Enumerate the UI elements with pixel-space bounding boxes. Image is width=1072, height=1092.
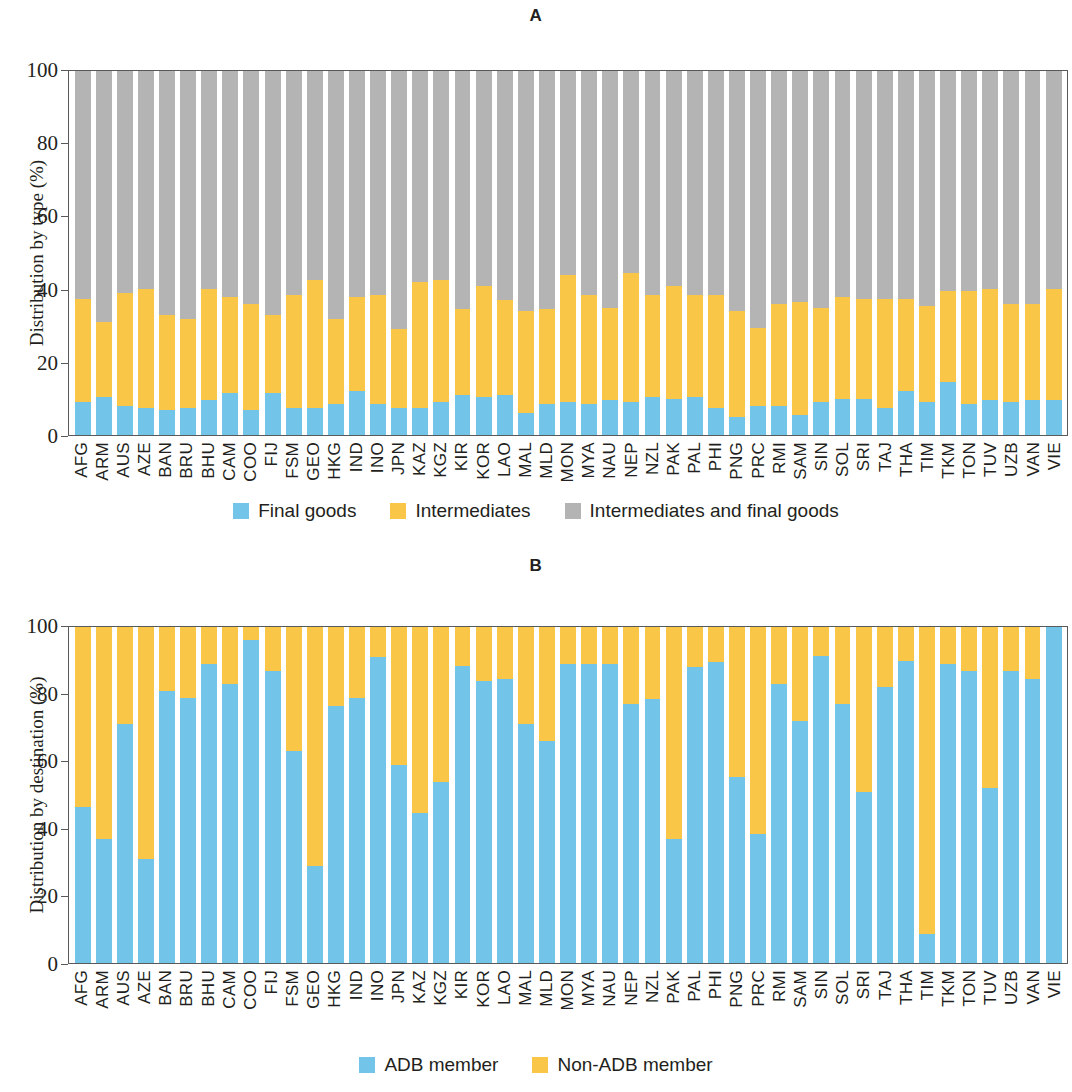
bar-segment xyxy=(180,319,196,408)
bar-segment xyxy=(729,417,745,435)
y-tick-label: 0 xyxy=(48,954,59,975)
panel-b-y-axis-ticks: 100806040200 xyxy=(0,626,58,964)
bar-segment xyxy=(497,300,513,395)
x-tick-label-nau: NAU xyxy=(603,968,619,1048)
bar-kgz xyxy=(433,627,449,963)
y-tick-mark xyxy=(61,216,68,217)
panel-b-plot-area xyxy=(68,626,1068,964)
x-tick-label-sri: SRI xyxy=(856,968,872,1048)
bar-segment xyxy=(792,415,808,435)
bar-segment xyxy=(982,71,998,289)
bar-segment xyxy=(286,408,302,435)
x-tick-label-arm: ARM xyxy=(95,968,111,1048)
bar-segment xyxy=(813,71,829,308)
x-tick-label-mon: MON xyxy=(560,968,576,1048)
bar-segment xyxy=(856,299,872,399)
x-tick-label-aus: AUS xyxy=(116,968,132,1048)
bar-segment xyxy=(961,627,977,671)
x-tick-label-pal: PAL xyxy=(687,968,703,1048)
bar-van xyxy=(1025,71,1041,435)
y-tick-mark xyxy=(61,626,68,627)
legend-item: Final goods xyxy=(233,500,356,522)
bar-segment xyxy=(349,297,365,392)
y-tick-mark xyxy=(61,436,68,437)
bar-mld xyxy=(539,627,555,963)
bar-segment xyxy=(835,297,851,399)
bar-segment xyxy=(623,273,639,402)
bar-segment xyxy=(687,295,703,397)
bar-segment xyxy=(328,706,344,963)
bar-bhu xyxy=(201,627,217,963)
bar-segment xyxy=(940,291,956,382)
bar-afg xyxy=(75,627,91,963)
bar-segment xyxy=(518,311,534,413)
x-tick-label-phi: PHI xyxy=(708,968,724,1048)
bar-segment xyxy=(750,328,766,406)
x-tick-label-rmi: RMI xyxy=(772,968,788,1048)
bar-vie xyxy=(1046,627,1062,963)
bar-segment xyxy=(222,393,238,435)
bar-segment xyxy=(708,408,724,435)
x-tick-label-kor: KOR xyxy=(476,968,492,1048)
bar-segment xyxy=(666,627,682,839)
x-tick-label-vie: VIE xyxy=(1047,968,1063,1048)
bar-segment xyxy=(560,627,576,664)
bar-uzb xyxy=(1003,627,1019,963)
panel-b: B Distribution by destination (%) 100806… xyxy=(0,546,1072,1092)
bar-segment xyxy=(792,302,808,415)
bar-segment xyxy=(476,627,492,681)
bar-segment xyxy=(982,400,998,435)
bar-segment xyxy=(750,406,766,435)
bar-pak xyxy=(666,627,682,963)
bar-segment xyxy=(1003,402,1019,435)
bar-segment xyxy=(1025,627,1041,679)
bar-segment xyxy=(1046,289,1062,400)
bar-segment xyxy=(560,275,576,402)
panel-b-bars xyxy=(69,627,1067,963)
bar-pal xyxy=(687,71,703,435)
bar-segment xyxy=(1003,627,1019,671)
bar-segment xyxy=(645,397,661,435)
bar-segment xyxy=(835,399,851,435)
bar-sol xyxy=(835,71,851,435)
bar-segment xyxy=(813,308,829,403)
legend-label: Intermediates and final goods xyxy=(590,500,839,522)
bar-segment xyxy=(877,71,893,299)
bar-segment xyxy=(982,788,998,963)
bar-segment xyxy=(687,71,703,295)
bar-segment xyxy=(919,934,935,963)
x-tick-label-ino: INO xyxy=(370,968,386,1048)
bar-segment xyxy=(539,741,555,963)
bar-segment xyxy=(835,704,851,963)
bar-segment xyxy=(222,297,238,393)
bar-fij xyxy=(265,71,281,435)
bar-segment xyxy=(497,627,513,679)
bar-jpn xyxy=(391,627,407,963)
bar-segment xyxy=(433,782,449,963)
bar-segment xyxy=(687,397,703,435)
panel-b-x-axis-labels: AFGARMAUSAZEBANBRUBHUCAMCOOFIJFSMGEOHKGI… xyxy=(68,968,1068,1048)
bar-segment xyxy=(877,299,893,408)
bar-coo xyxy=(243,627,259,963)
bar-segment xyxy=(455,627,471,666)
bar-segment xyxy=(1025,679,1041,963)
bar-fsm xyxy=(286,71,302,435)
bar-segment xyxy=(433,627,449,782)
bar-segment xyxy=(835,71,851,297)
bar-segment xyxy=(455,395,471,435)
bar-segment xyxy=(856,627,872,792)
bar-segment xyxy=(96,322,112,397)
bar-segment xyxy=(328,319,344,405)
bar-segment xyxy=(898,71,914,299)
bar-segment xyxy=(602,308,618,401)
bar-segment xyxy=(391,329,407,407)
bar-segment xyxy=(539,71,555,309)
bar-segment xyxy=(201,400,217,435)
bar-segment xyxy=(138,859,154,963)
x-tick-label-tuv: TUV xyxy=(983,968,999,1048)
bar-segment xyxy=(307,408,323,435)
bar-segment xyxy=(307,866,323,963)
bar-segment xyxy=(476,286,492,397)
bar-segment xyxy=(771,304,787,406)
legend-swatch xyxy=(390,503,406,519)
